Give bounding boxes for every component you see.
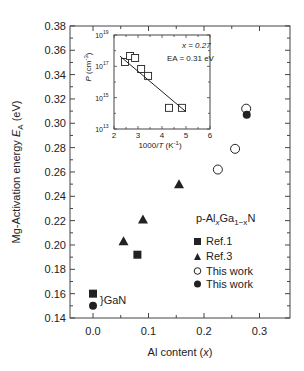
- y-tick-label: 0.20: [45, 239, 66, 251]
- inset-open-square-marker: [165, 104, 172, 111]
- legend-filled-this-work: This work: [206, 278, 254, 290]
- triangle-marker: [119, 236, 129, 245]
- y-tick-label: 0.36: [45, 44, 66, 56]
- inset-y-label: P (cm-3): [83, 52, 93, 81]
- inset-y-tick-label: 10: [95, 126, 103, 133]
- inset-plot: 234561013101510171019 x = 0.27 EA = 0.31…: [83, 29, 215, 150]
- inset-x-tick-label: 5: [184, 131, 189, 140]
- y-tick-label: 0.28: [45, 142, 66, 154]
- square-marker: [89, 290, 97, 298]
- x-tick-label: 0.0: [85, 325, 100, 337]
- inset-y-tick-exponent: 15: [103, 92, 109, 98]
- inset-x-tick-label: 2: [112, 131, 117, 140]
- inset-x-tick-label: 6: [208, 131, 213, 140]
- y-tick-label: 0.16: [45, 288, 66, 300]
- inset-x-tick-label: 4: [160, 131, 165, 140]
- y-tick-label: 0.18: [45, 263, 66, 275]
- triangle-marker: [138, 214, 148, 223]
- inset-annotation-ea: EA = 0.31 eV: [167, 54, 215, 63]
- legend-ref3: Ref.3: [206, 250, 232, 262]
- inset-open-square-marker: [132, 55, 139, 62]
- inset-y-tick-label: 10: [95, 32, 103, 39]
- inset-y-tick-exponent: 17: [103, 60, 109, 66]
- filled-circle-marker: [243, 111, 251, 119]
- y-tick-label: 0.26: [45, 166, 66, 178]
- x-axis-label: Al content (x): [148, 346, 213, 358]
- inset-x-tick-label: 3: [136, 131, 141, 140]
- inset-y-tick-label: 10: [95, 63, 103, 70]
- inset-y-tick-label: 10: [95, 95, 103, 102]
- x-tick-label: 0.2: [196, 325, 211, 337]
- activation-energy-chart: 0.140.160.180.200.220.240.260.280.300.32…: [0, 0, 304, 371]
- x-tick-label: 0.1: [141, 325, 156, 337]
- y-axis-label: Mg-Activation energy EA (eV): [10, 101, 25, 244]
- x-tick-label: 0.3: [252, 325, 267, 337]
- inset-annotation-x: x = 0.27: [181, 41, 211, 50]
- legend-filled-circle-icon: [194, 281, 201, 288]
- legend-open-circle-icon: [194, 268, 201, 275]
- y-tick-label: 0.24: [45, 190, 66, 202]
- triangle-marker: [174, 179, 184, 188]
- y-tick-label: 0.30: [45, 117, 66, 129]
- inset-y-tick-exponent: 19: [103, 29, 109, 35]
- gan-annotation: }GaN: [100, 294, 126, 306]
- y-tick-label: 0.22: [45, 215, 66, 227]
- y-tick-label: 0.38: [45, 20, 66, 32]
- legend-open-this-work: This work: [206, 265, 254, 277]
- inset-y-tick-exponent: 13: [103, 123, 109, 129]
- y-tick-label: 0.32: [45, 93, 66, 105]
- legend-triangle-icon: [194, 253, 201, 260]
- inset-x-label: 1000/T (K-1): [138, 140, 182, 150]
- legend: p-AlxGa1−xN Ref.1 Ref.3 This work This w…: [194, 212, 255, 290]
- y-tick-label: 0.34: [45, 69, 66, 81]
- open-circle-marker: [213, 165, 222, 174]
- open-circle-marker: [231, 144, 240, 153]
- y-tick-label: 0.14: [45, 312, 66, 324]
- legend-title: p-AlxGa1−xN: [196, 212, 255, 227]
- legend-square-icon: [194, 238, 201, 245]
- square-marker: [133, 251, 141, 259]
- legend-ref1: Ref.1: [206, 235, 232, 247]
- filled-circle-marker: [89, 302, 97, 310]
